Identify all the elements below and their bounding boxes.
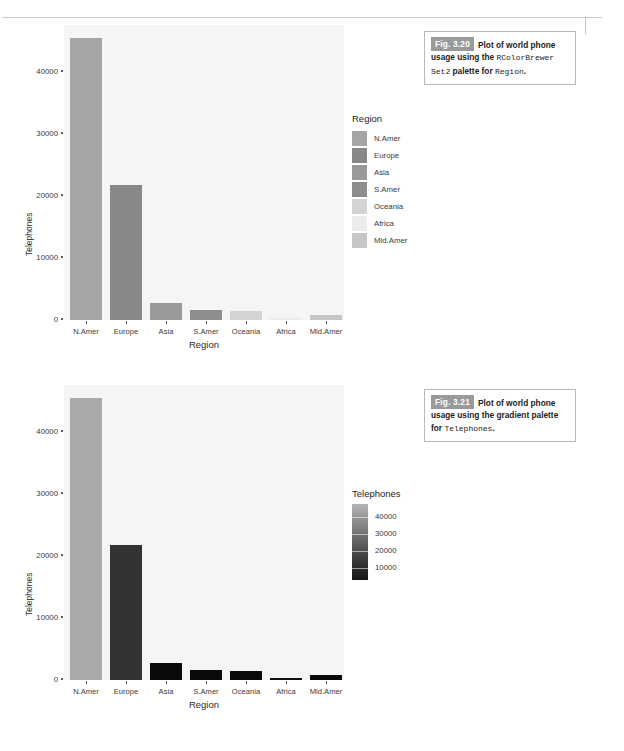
chart2-y-axis-title: Telephones	[24, 573, 34, 616]
chart1-legend-label-mid-amer: Mid.Amer	[374, 236, 407, 245]
chart1-ytick-label-0: 0	[22, 315, 58, 324]
chart2-ytick-mark-2	[61, 554, 63, 556]
chart1-ytick-mark-0	[61, 318, 63, 320]
chart2-bar-oceania	[230, 671, 262, 680]
chart1-xtick-mark-3	[206, 321, 207, 324]
chart2-bar-africa	[270, 678, 302, 680]
chart1-legend-title: Region	[352, 113, 407, 124]
chart1-legend-label-asia: Asia	[374, 168, 389, 177]
chart2-colorbar-tick-10000	[352, 568, 368, 569]
chart2-xtick-mark-6	[326, 681, 327, 684]
chart2-bar-asia	[150, 663, 182, 680]
chart1-legend-item-mid-amer[interactable]: Mid.Amer	[352, 232, 407, 248]
chart2-xtick-mark-2	[166, 681, 167, 684]
chart1-legend-swatch-europe	[352, 148, 367, 163]
chart1-legend-label-s-amer: S.Amer	[374, 185, 400, 194]
chart1-xtick-mark-4	[246, 321, 247, 324]
chart1-legend-label-oceania: Oceania	[374, 202, 403, 211]
chart1-ytick-mark-3	[61, 132, 63, 134]
page-canvas: Fig. 3.20Plot of world phone usage using…	[0, 0, 624, 751]
header-rule-tick	[585, 17, 586, 34]
chart1-legend-item-asia[interactable]: Asia	[352, 164, 407, 180]
chart-world-phone-usage-gradient: Telephones 0 10000 20000 30000 40000	[0, 385, 420, 715]
chart2-legend-title: Telephones	[352, 488, 424, 499]
figure-caption-code-region: Region	[495, 67, 524, 76]
chart1-xtick-mark-0	[86, 321, 87, 324]
figure-caption-text-3-21-b: .	[492, 423, 494, 433]
chart2-colorbar-tick-20000	[352, 551, 368, 552]
chart2-bar-mid-amer	[310, 675, 342, 680]
chart2-xtick-mark-3	[206, 681, 207, 684]
chart2-colorbar-labels: 40000 30000 20000 10000	[368, 504, 424, 580]
chart2-xtick-mark-5	[286, 681, 287, 684]
figure-caption-code-telephones: Telephones	[444, 424, 492, 433]
chart2-xtick-mark-1	[126, 681, 127, 684]
chart1-bar-s-amer	[190, 310, 222, 320]
chart1-ytick-mark-2	[61, 194, 63, 196]
chart2-colorbar-tick-40000	[352, 517, 368, 518]
chart1-legend-swatch-asia	[352, 165, 367, 180]
header-rule	[2, 17, 602, 18]
chart1-legend-item-africa[interactable]: Africa	[352, 215, 407, 231]
chart1-ytick-label-4: 40000	[22, 67, 58, 76]
chart2-ytick-mark-3	[61, 492, 63, 494]
chart1-xtick-mark-6	[326, 321, 327, 324]
chart2-xtick-mark-0	[86, 681, 87, 684]
chart2-colorbar-gradient[interactable]	[352, 504, 368, 580]
chart2-colorbar-label-10000: 10000	[375, 563, 397, 572]
chart1-legend-swatch-n-amer	[352, 131, 367, 146]
chart1-xtick-mark-5	[286, 321, 287, 324]
chart2-bar-n-amer	[70, 398, 102, 680]
figure-tag-3-20: Fig. 3.20	[431, 37, 474, 51]
chart1-legend-swatch-africa	[352, 216, 367, 231]
chart2-ytick-mark-4	[61, 430, 63, 432]
chart1-legend-label-africa: Africa	[374, 219, 394, 228]
chart1-bar-africa	[270, 318, 302, 320]
chart2-ytick-label-3: 30000	[22, 489, 58, 498]
figure-caption-code-rcolorbrewer: RColorBrewer	[496, 53, 554, 62]
chart1-legend: Region N.Amer Europe Asia S.Amer Oceania	[352, 113, 407, 249]
chart2-colorbar-tick-30000	[352, 534, 368, 535]
chart2-ytick-mark-1	[61, 616, 63, 618]
chart2-colorbar-label-40000: 40000	[375, 512, 397, 521]
chart2-xtick-mark-4	[246, 681, 247, 684]
chart2-legend: Telephones 40000 30000 20000 10000	[352, 488, 424, 580]
chart1-legend-item-s-amer[interactable]: S.Amer	[352, 181, 407, 197]
chart2-colorbar-label-30000: 30000	[375, 529, 397, 538]
figure-caption-text-3-20-d: .	[524, 66, 526, 76]
chart2-ytick-mark-0	[61, 678, 63, 680]
chart1-x-axis-title: Region	[160, 339, 248, 350]
chart1-xtick-mark-2	[166, 321, 167, 324]
chart1-xtick-label-mid-amer: Mid.Amer	[302, 327, 350, 336]
chart1-legend-swatch-mid-amer	[352, 233, 367, 248]
chart1-legend-swatch-oceania	[352, 199, 367, 214]
chart1-bar-asia	[150, 303, 182, 320]
figure-tag-3-21: Fig. 3.21	[431, 395, 474, 409]
chart1-y-axis-title: Telephones	[24, 213, 34, 256]
chart2-ytick-label-0: 0	[22, 675, 58, 684]
figure-caption-3-21: Fig. 3.21Plot of world phone usage using…	[424, 389, 576, 442]
chart1-ytick-mark-4	[61, 70, 63, 72]
chart1-legend-item-n-amer[interactable]: N.Amer	[352, 130, 407, 146]
chart1-legend-swatch-s-amer	[352, 182, 367, 197]
chart1-bar-mid-amer	[310, 315, 342, 320]
figure-caption-code-set2: Set2	[431, 67, 450, 76]
chart2-bar-europe	[110, 545, 142, 680]
chart2-bar-s-amer	[190, 670, 222, 680]
chart1-bar-oceania	[230, 311, 262, 320]
chart1-ytick-mark-1	[61, 256, 63, 258]
chart1-legend-label-n-amer: N.Amer	[374, 134, 400, 143]
chart2-colorbar-wrap: 40000 30000 20000 10000	[352, 504, 424, 580]
chart1-legend-label-europe: Europe	[374, 151, 399, 160]
chart2-colorbar-label-20000: 20000	[375, 546, 397, 555]
chart1-legend-item-oceania[interactable]: Oceania	[352, 198, 407, 214]
chart1-ytick-label-1: 10000	[22, 253, 58, 262]
chart1-plot-panel	[64, 25, 344, 320]
figure-caption-text-3-20-c: palette for	[450, 66, 495, 76]
chart2-ytick-label-4: 40000	[22, 427, 58, 436]
chart2-plot-panel	[64, 385, 344, 680]
chart1-bar-europe	[110, 185, 142, 320]
chart2-x-axis-title: Region	[160, 699, 248, 710]
chart-world-phone-usage-set2: Telephones 0 10000 20000 30000 40000	[0, 25, 420, 355]
chart1-legend-item-europe[interactable]: Europe	[352, 147, 407, 163]
